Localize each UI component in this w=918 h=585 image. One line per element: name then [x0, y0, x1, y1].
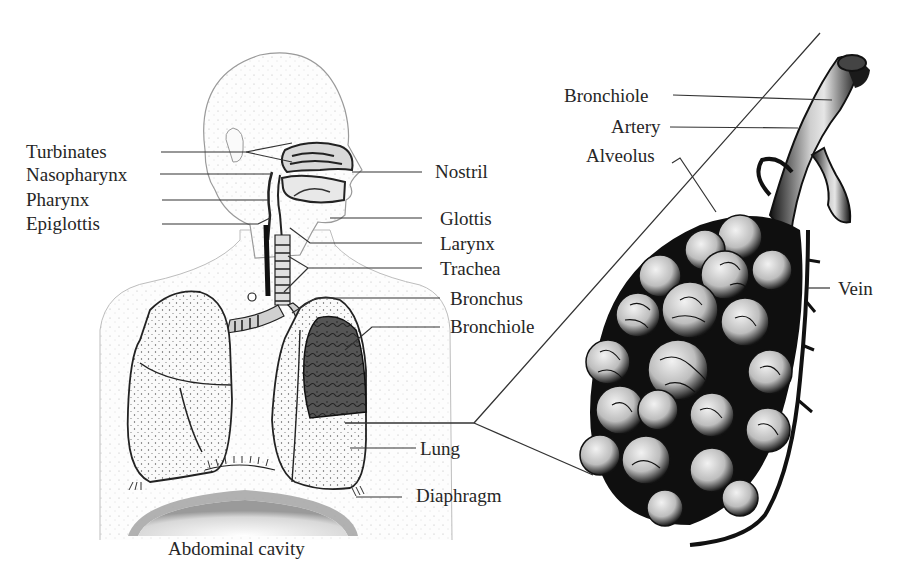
label-lung: Lung	[420, 439, 460, 458]
label-nostril: Nostril	[435, 162, 488, 181]
label-glottis: Glottis	[440, 209, 492, 228]
label-bronchiole-right: Bronchiole	[564, 86, 648, 105]
label-nasopharynx: Nasopharynx	[26, 165, 127, 184]
label-artery: Artery	[611, 117, 661, 136]
label-vein: Vein	[838, 279, 873, 298]
label-bronchiole-left: Bronchiole	[450, 317, 534, 336]
label-trachea: Trachea	[440, 259, 501, 278]
label-pharynx: Pharynx	[26, 190, 89, 209]
respiratory-diagram: Turbinates Nasopharynx Pharynx Epiglotti…	[0, 0, 918, 585]
label-bronchus: Bronchus	[450, 289, 523, 308]
label-abdominal-cavity: Abdominal cavity	[168, 539, 305, 558]
label-alveolus: Alveolus	[586, 146, 655, 165]
label-larynx: Larynx	[440, 234, 495, 253]
label-diaphragm: Diaphragm	[416, 486, 501, 505]
label-epiglottis: Epiglottis	[26, 214, 100, 233]
label-turbinates: Turbinates	[26, 142, 107, 161]
